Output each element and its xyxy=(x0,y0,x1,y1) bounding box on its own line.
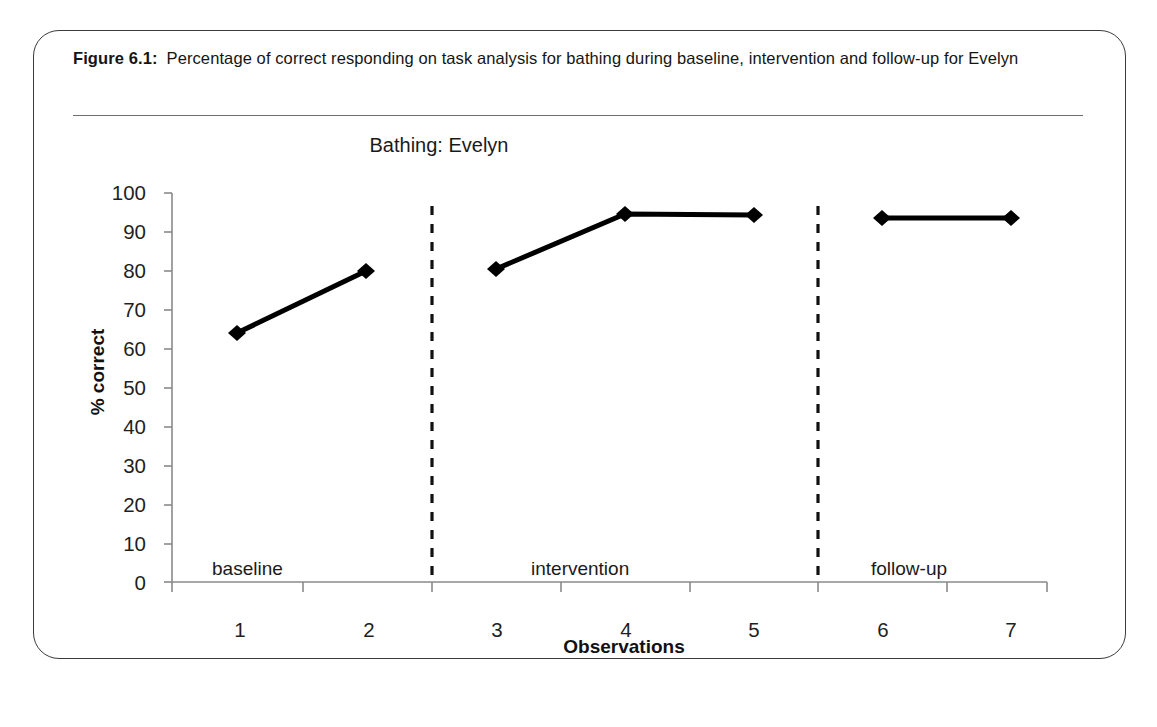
series-line-intervention xyxy=(496,214,754,269)
data-point-marker xyxy=(487,261,505,277)
data-point-marker xyxy=(745,207,763,223)
data-point-marker xyxy=(873,210,891,226)
series-line-baseline xyxy=(237,271,366,333)
chart-plot-area: Bathing: Evelyn % correct Observations 1… xyxy=(34,31,1127,660)
chart-svg xyxy=(34,31,1127,660)
figure-card: Figure 6.1:Percentage of correct respond… xyxy=(33,30,1126,659)
data-point-marker xyxy=(1002,210,1020,226)
data-point-marker xyxy=(616,206,634,222)
